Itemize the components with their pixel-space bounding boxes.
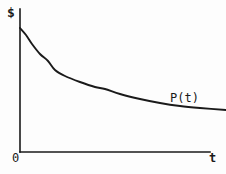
curve-label: P(t) xyxy=(170,92,199,104)
origin-label: 0 xyxy=(12,152,19,164)
decay-curve-figure: $ 0 t P(t) xyxy=(0,0,226,174)
y-axis-label: $ xyxy=(7,6,15,19)
plot-canvas xyxy=(0,0,226,174)
x-axis-label: t xyxy=(209,152,216,164)
axes-group xyxy=(20,9,210,152)
